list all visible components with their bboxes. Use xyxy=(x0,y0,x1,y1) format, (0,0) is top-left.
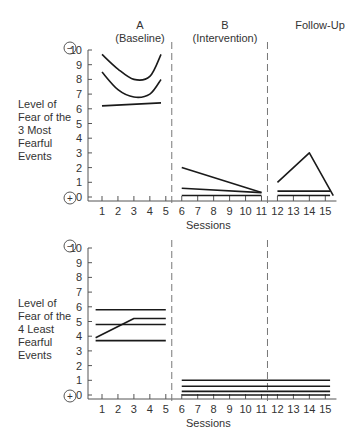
x-tick-label: 3 xyxy=(131,205,137,217)
x-tick-label: 14 xyxy=(303,205,315,217)
y-tick-label: 1 xyxy=(76,374,82,386)
x-tick-label: 8 xyxy=(211,403,217,415)
x-tick-label: 1 xyxy=(99,205,105,217)
top-chart: 012345678910123456789101112131415−+ xyxy=(64,42,336,217)
x-tick-label: 6 xyxy=(179,403,185,415)
y-tick-label: 3 xyxy=(76,345,82,357)
y-tick-label: 0 xyxy=(76,191,82,203)
x-tick-label: 10 xyxy=(239,205,251,217)
x-tick-label: 14 xyxy=(303,403,315,415)
plus-icon-glyph: + xyxy=(67,391,73,402)
x-tick-label: 11 xyxy=(256,205,267,217)
x-tick-label: 2 xyxy=(115,403,121,415)
bottom-chart: 012345678910123456789101112131415−+ xyxy=(64,240,336,415)
y-tick-label: 0 xyxy=(76,389,82,401)
data-series-line xyxy=(102,54,161,80)
data-series-line xyxy=(102,103,161,106)
y-tick-label: 9 xyxy=(76,59,82,71)
minus-icon-glyph: − xyxy=(67,241,73,252)
x-tick-label: 15 xyxy=(319,403,331,415)
x-tick-label: 5 xyxy=(163,205,169,217)
y-tick-label: 8 xyxy=(76,73,82,85)
y-tick-label: 9 xyxy=(76,257,82,269)
x-tick-label: 4 xyxy=(147,403,153,415)
x-tick-label: 12 xyxy=(271,205,283,217)
y-tick-label: 5 xyxy=(76,316,82,328)
x-tick-label: 9 xyxy=(227,403,233,415)
x-tick-label: 15 xyxy=(319,205,331,217)
x-tick-label: 11 xyxy=(256,403,267,415)
x-tick-label: 1 xyxy=(99,403,105,415)
x-tick-label: 4 xyxy=(147,205,153,217)
x-tick-label: 12 xyxy=(271,403,283,415)
x-tick-label: 2 xyxy=(115,205,121,217)
x-tick-label: 13 xyxy=(287,205,299,217)
y-tick-label: 6 xyxy=(76,103,82,115)
x-tick-label: 8 xyxy=(211,205,217,217)
x-tick-label: 13 xyxy=(287,403,299,415)
y-tick-label: 5 xyxy=(76,118,82,130)
y-tick-label: 1 xyxy=(76,176,82,188)
y-tick-label: 2 xyxy=(76,162,82,174)
y-tick-label: 7 xyxy=(76,286,82,298)
x-tick-label: 5 xyxy=(163,403,169,415)
x-tick-label: 6 xyxy=(179,205,185,217)
y-tick-label: 7 xyxy=(76,88,82,100)
x-tick-label: 7 xyxy=(195,403,201,415)
y-tick-label: 2 xyxy=(76,360,82,372)
figure-canvas: 012345678910123456789101112131415−+ 0123… xyxy=(0,0,360,442)
y-tick-label: 8 xyxy=(76,271,82,283)
x-tick-label: 9 xyxy=(227,205,233,217)
y-tick-label: 4 xyxy=(76,132,82,144)
data-series-line xyxy=(102,72,161,97)
minus-icon-glyph: − xyxy=(67,43,73,54)
y-tick-label: 6 xyxy=(76,301,82,313)
data-series-line xyxy=(96,319,166,338)
x-tick-label: 3 xyxy=(131,403,137,415)
y-tick-label: 3 xyxy=(76,147,82,159)
y-tick-label: 4 xyxy=(76,330,82,342)
plus-icon-glyph: + xyxy=(67,193,73,204)
x-tick-label: 10 xyxy=(239,403,251,415)
x-tick-label: 7 xyxy=(195,205,201,217)
data-series-line xyxy=(277,153,333,196)
